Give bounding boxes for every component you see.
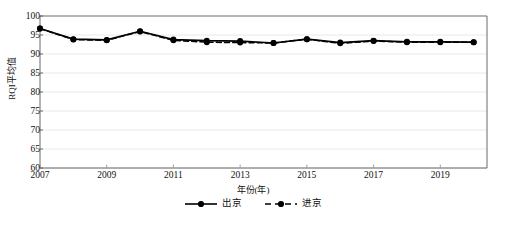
y-tick-label: 100 — [14, 11, 40, 21]
chart-legend: 出京 进京 — [0, 199, 506, 209]
y-tick-label: 65 — [14, 144, 40, 154]
x-tick-label: 2011 — [153, 170, 193, 180]
legend-key-solid-line-icon — [184, 199, 218, 209]
legend-key-dashed-line-icon — [264, 199, 298, 209]
y-tick-label: 70 — [14, 125, 40, 135]
x-tick-label: 2009 — [87, 170, 127, 180]
x-tick-label: 2015 — [287, 170, 327, 180]
x-tick-label: 2019 — [420, 170, 460, 180]
legend-item-series-1[interactable]: 进京 — [264, 199, 322, 209]
legend-label-series-0: 出京 — [222, 199, 242, 209]
y-tick-label: 85 — [14, 68, 40, 78]
chart-figure: 6065707580859095100 20072009201120132015… — [0, 0, 506, 226]
x-tick-label: 2007 — [20, 170, 60, 180]
y-tick-label: 75 — [14, 106, 40, 116]
y-tick-label: 80 — [14, 87, 40, 97]
legend-label-series-1: 进京 — [302, 199, 322, 209]
y-tick-label: 90 — [14, 49, 40, 59]
x-tick-label: 2013 — [220, 170, 260, 180]
y-axis-label: RQI平均值 — [5, 44, 18, 114]
y-tick-label: 95 — [14, 30, 40, 40]
legend-item-series-0[interactable]: 出京 — [184, 199, 242, 209]
x-axis-label: 年份(年) — [0, 183, 506, 196]
x-tick-label: 2017 — [354, 170, 394, 180]
